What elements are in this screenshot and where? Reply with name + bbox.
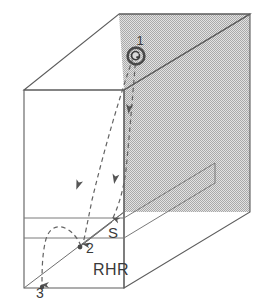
point-markers (40, 245, 83, 290)
arrowhead-icon-left-mid (73, 179, 83, 191)
label-point-1: 1 (136, 33, 143, 48)
label-point-2: 2 (86, 240, 94, 256)
arrowhead-icon-lower (111, 173, 120, 184)
diagram-canvas: 1 2 3 S RHR (0, 0, 272, 307)
label-surface-s: S (108, 224, 118, 241)
label-rhr: RHR (93, 261, 129, 278)
trajectory-2-to-3 (42, 227, 81, 285)
front-face-outline (24, 90, 124, 288)
dot-point-2 (78, 245, 83, 250)
label-point-3: 3 (36, 285, 44, 301)
block-diagram-figure: 1 2 3 S RHR (0, 0, 272, 307)
